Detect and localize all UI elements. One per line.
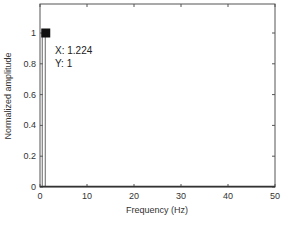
x-tick-label: 40 [223,191,233,201]
datatip-marker[interactable] [41,29,50,38]
chart: 00.20.40.60.81 01020304050 X: 1.224 Y: 1… [0,0,281,226]
x-tick-label: 20 [129,191,139,201]
y-tick-label: 1 [31,28,36,38]
x-tick-label: 10 [82,191,92,201]
y-axis-label: Normalized amplitude [3,52,13,139]
x-tick-label: 50 [270,191,280,201]
y-tick-label: 0 [31,182,36,192]
x-axis-label: Frequency (Hz) [126,205,188,215]
y-tick-label: 0.2 [23,151,36,161]
x-tick-label: 0 [37,191,42,201]
plot-area [40,4,275,187]
x-tick-label: 30 [176,191,186,201]
y-tick-label: 0.6 [23,90,36,100]
y-tick-label: 0.4 [23,120,36,130]
datatip-x-text: X: 1.224 [55,45,93,56]
datatip-y-text: Y: 1 [55,58,73,69]
y-tick-label: 0.8 [23,59,36,69]
